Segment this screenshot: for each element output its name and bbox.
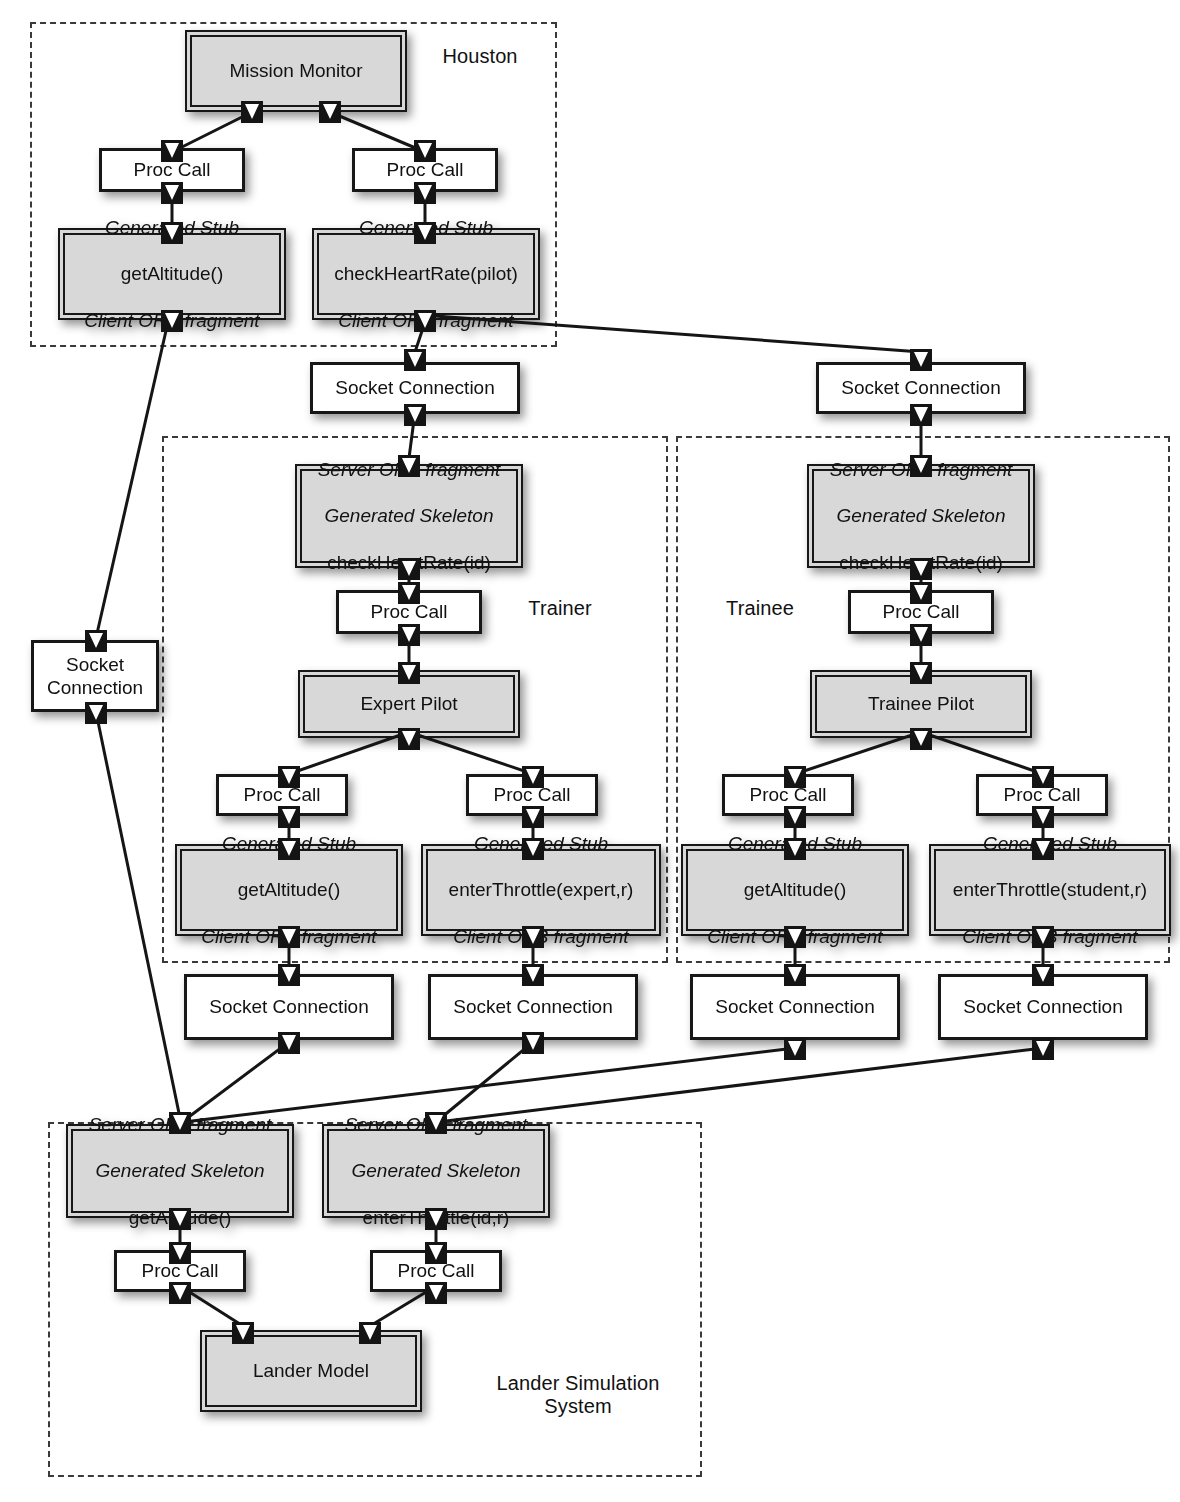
port-proc-call-trainee-heartrate-in [910,582,932,604]
skeleton-check-heart-rate-trainee-line2: Generated Skeleton [830,504,1013,527]
port-skeleton-check-heart-rate-trainee-in [910,455,932,477]
region-houston-label: Houston [420,45,540,68]
port-socket-connection-heartrate-trainer-out [404,404,426,426]
skeleton-check-heart-rate-trainer-line2: Generated Skeleton [318,504,501,527]
diagram-canvas: Houston Trainer Trainee Lander Simulatio… [0,0,1180,1502]
port-stub-enter-throttle-expert-out [522,926,544,948]
node-skeleton-check-heart-rate-trainer[interactable]: Server ORB fragment Generated Skeleton c… [295,464,523,568]
port-proc-call-houston-altitude-in [161,140,183,162]
stub-get-altitude-houston-line2: getAltitude() [84,262,259,285]
port-proc-call-houston-altitude-out [161,182,183,204]
port-socket-connection-houston-altitude-out [85,702,107,724]
port-trainee-pilot-in [910,662,932,684]
node-socket-connection-heartrate-trainee-label: Socket Connection [837,376,1005,399]
region-lander-simulation-label: Lander Simulation System [478,1372,678,1418]
port-stub-get-altitude-trainee-out [784,926,806,948]
node-socket-connection-trainer-altitude-label: Socket Connection [205,995,373,1018]
node-mission-monitor-label: Mission Monitor [225,59,366,82]
node-trainee-pilot-label: Trainee Pilot [864,692,978,715]
port-socket-connection-trainee-throttle-in [1032,964,1054,986]
port-socket-connection-trainer-throttle-in [522,964,544,986]
node-skeleton-check-heart-rate-trainee[interactable]: Server ORB fragment Generated Skeleton c… [807,464,1035,568]
node-socket-connection-trainee-altitude-label: Socket Connection [711,995,879,1018]
port-stub-enter-throttle-student-in [1032,838,1054,860]
port-skeleton-get-altitude-lander-out [169,1208,191,1230]
stub-enter-throttle-student-line2: enterThrottle(student,r) [953,878,1147,901]
stub-enter-throttle-expert-line2: enterThrottle(expert,r) [449,878,634,901]
stub-check-heart-rate-houston-line2: checkHeartRate(pilot) [334,262,518,285]
port-skeleton-check-heart-rate-trainer-in [398,455,420,477]
port-mission-monitor-out-right [319,101,341,123]
node-expert-pilot-label: Expert Pilot [356,692,461,715]
node-socket-connection-trainee-throttle-label: Socket Connection [959,995,1127,1018]
node-skeleton-get-altitude-lander[interactable]: Server ORB fragment Generated Skeleton g… [66,1124,294,1218]
port-proc-call-lander-altitude-in [169,1242,191,1264]
port-socket-connection-trainee-throttle-out [1032,1038,1054,1060]
port-trainee-pilot-out [910,728,932,750]
port-expert-pilot-out [398,728,420,750]
port-skeleton-enter-throttle-lander-out [425,1208,447,1230]
port-proc-call-trainee-altitude-out [784,806,806,828]
port-stub-enter-throttle-expert-in [522,838,544,860]
port-skeleton-check-heart-rate-trainee-out [910,558,932,580]
port-skeleton-get-altitude-lander-in [169,1112,191,1134]
stub-get-altitude-trainee-line2: getAltitude() [707,878,882,901]
node-socket-connection-heartrate-trainer-label: Socket Connection [331,376,499,399]
port-expert-pilot-in [398,662,420,684]
region-trainee-label: Trainee [700,597,820,620]
port-proc-call-trainer-altitude-out [278,806,300,828]
stub-get-altitude-trainer-line2: getAltitude() [201,878,376,901]
port-proc-call-lander-throttle-out [425,1282,447,1304]
port-socket-connection-houston-altitude-in [85,630,107,652]
node-socket-connection-trainer-throttle-label: Socket Connection [449,995,617,1018]
port-lander-model-in-left [232,1322,254,1344]
port-stub-enter-throttle-student-out [1032,926,1054,948]
port-socket-connection-heartrate-trainee-out [910,404,932,426]
port-stub-get-altitude-trainer-in [278,838,300,860]
port-stub-get-altitude-trainer-out [278,926,300,948]
port-proc-call-trainer-throttle-out [522,806,544,828]
node-skeleton-enter-throttle-lander[interactable]: Server ORB fragment Generated Skeleton e… [322,1124,550,1218]
port-socket-connection-trainer-altitude-out [278,1032,300,1054]
skeleton-get-altitude-lander-line2: Generated Skeleton [89,1159,272,1182]
port-socket-connection-trainee-altitude-out [784,1038,806,1060]
node-mission-monitor[interactable]: Mission Monitor [185,30,407,112]
port-proc-call-trainer-altitude-in [278,766,300,788]
port-proc-call-trainer-heartrate-out [398,624,420,646]
port-proc-call-trainer-throttle-in [522,766,544,788]
port-lander-model-in-right [359,1322,381,1344]
port-stub-get-altitude-houston-in [161,222,183,244]
port-mission-monitor-out-left [241,101,263,123]
region-trainer-label: Trainer [500,597,620,620]
node-socket-connection-houston-altitude-label: Socket Connection [43,653,147,699]
port-proc-call-trainee-throttle-out [1032,806,1054,828]
skeleton-enter-throttle-lander-line2: Generated Skeleton [345,1159,528,1182]
port-socket-connection-trainer-throttle-out [522,1032,544,1054]
port-proc-call-houston-heartrate-out [414,182,436,204]
port-proc-call-houston-heartrate-in [414,140,436,162]
port-proc-call-trainer-heartrate-in [398,582,420,604]
port-socket-connection-heartrate-trainer-in [404,349,426,371]
port-stub-get-altitude-trainee-in [784,838,806,860]
port-socket-connection-trainee-altitude-in [784,964,806,986]
port-proc-call-trainee-throttle-in [1032,766,1054,788]
node-lander-model-label: Lander Model [249,1359,373,1382]
port-proc-call-trainee-altitude-in [784,766,806,788]
port-skeleton-check-heart-rate-trainer-out [398,558,420,580]
port-socket-connection-heartrate-trainee-in [910,349,932,371]
port-stub-get-altitude-houston-out [161,310,183,332]
port-proc-call-lander-throttle-in [425,1242,447,1264]
port-socket-connection-trainer-altitude-in [278,964,300,986]
port-proc-call-trainee-heartrate-out [910,624,932,646]
port-stub-check-heart-rate-houston-in [414,222,436,244]
port-skeleton-enter-throttle-lander-in [425,1112,447,1134]
port-proc-call-lander-altitude-out [169,1282,191,1304]
port-stub-check-heart-rate-houston-out [414,310,436,332]
